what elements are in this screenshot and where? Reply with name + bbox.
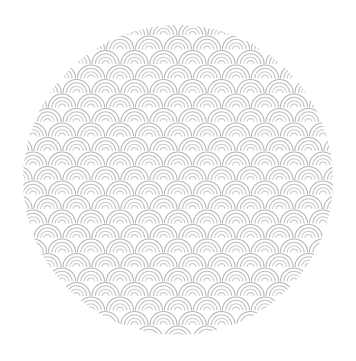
seigaiha-circle-graphic: Seigaiha Wave Pattern Circle A circular …: [0, 0, 356, 361]
artwork-canvas: Seigaiha Wave Pattern Circle A circular …: [0, 0, 356, 361]
